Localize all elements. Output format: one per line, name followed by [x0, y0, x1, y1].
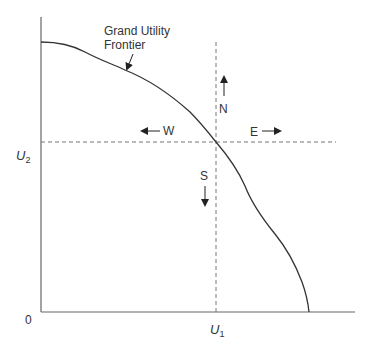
curve-label-line1: Grand Utility [104, 24, 170, 38]
west-label: W [163, 124, 175, 138]
origin-label: 0 [25, 313, 32, 327]
utility-frontier-diagram: Grand Utility Frontier N W E S 0 U2 U1 [0, 0, 371, 348]
curve-label-pointer-icon [127, 54, 133, 69]
south-label: S [200, 169, 208, 183]
x-axis-label: U1 [210, 322, 224, 339]
east-label: E [250, 125, 258, 139]
north-label: N [219, 102, 228, 116]
curve-label-line2: Frontier [104, 38, 145, 52]
y-axis-label: U2 [16, 148, 30, 165]
grand-utility-frontier-curve [41, 42, 309, 312]
